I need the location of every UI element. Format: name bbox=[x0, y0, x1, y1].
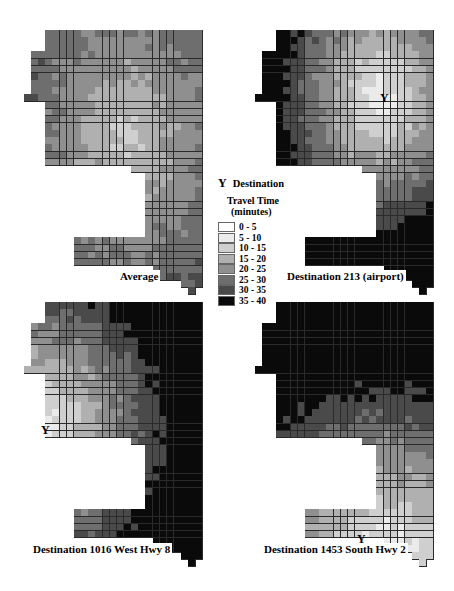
legend-swatch bbox=[218, 296, 235, 306]
zone-cell bbox=[188, 559, 196, 567]
legend-swatch bbox=[218, 264, 235, 274]
zone-cell bbox=[195, 280, 203, 288]
legend-item-label: 25 - 30 bbox=[239, 275, 266, 285]
destination-marker-icon: Y bbox=[357, 533, 366, 545]
legend-swatch bbox=[218, 254, 235, 264]
legend-title: Travel Time (minutes) bbox=[227, 195, 308, 217]
destination-symbol: Y bbox=[218, 176, 227, 191]
destination-marker-icon: Y bbox=[380, 92, 389, 104]
legend-item: 20 - 25 bbox=[218, 264, 308, 275]
legend-swatch bbox=[218, 285, 235, 295]
map-label: Destination 1453 South Hwy 2 bbox=[262, 543, 408, 555]
legend-swatch bbox=[218, 233, 235, 243]
zone-cell bbox=[426, 280, 434, 288]
legend-item-label: 15 - 20 bbox=[239, 254, 266, 264]
legend-item-label: 35 - 40 bbox=[239, 296, 266, 306]
destination-marker-icon: Y bbox=[41, 424, 50, 436]
legend-swatch bbox=[218, 275, 235, 285]
legend-title-line2: (minutes) bbox=[231, 206, 308, 217]
map-label: Destination 1016 West Hwy 8 bbox=[31, 543, 172, 555]
map-label: Average bbox=[118, 270, 160, 282]
zone-cell bbox=[188, 287, 196, 295]
legend: Y Destination Travel Time (minutes) 0 - … bbox=[218, 176, 308, 306]
legend-item: 10 - 15 bbox=[218, 243, 308, 254]
zone-cell bbox=[426, 552, 434, 560]
destination-legend-label: Destination bbox=[233, 178, 284, 189]
legend-item: 0 - 5 bbox=[218, 222, 308, 233]
legend-item-label: 0 - 5 bbox=[239, 222, 256, 232]
legend-item: 35 - 40 bbox=[218, 296, 308, 307]
legend-item: 15 - 20 bbox=[218, 254, 308, 265]
legend-title-line1: Travel Time bbox=[227, 195, 279, 206]
zone-cell bbox=[419, 559, 427, 567]
zone-cell bbox=[195, 552, 203, 560]
legend-item: 25 - 30 bbox=[218, 275, 308, 286]
legend-swatch bbox=[218, 222, 235, 232]
legend-item-label: 30 - 35 bbox=[239, 285, 266, 295]
legend-item-label: 20 - 25 bbox=[239, 264, 266, 274]
legend-item-label: 5 - 10 bbox=[239, 233, 261, 243]
legend-item: 30 - 35 bbox=[218, 285, 308, 296]
zone-cell bbox=[419, 287, 427, 295]
legend-items: 0 - 55 - 1010 - 1515 - 2020 - 2525 - 303… bbox=[218, 222, 308, 306]
legend-item: 5 - 10 bbox=[218, 233, 308, 244]
legend-item-label: 10 - 15 bbox=[239, 243, 266, 253]
legend-swatch bbox=[218, 243, 235, 253]
